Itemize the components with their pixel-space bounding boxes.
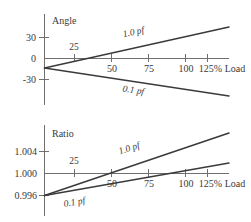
ratio-x-label-50: 50 <box>107 178 117 189</box>
ratio-x-label-25: 25 <box>69 156 79 166</box>
angle-x-label-100: 100 <box>179 63 194 74</box>
ratio-y-label-0996: 0.996 <box>15 190 38 201</box>
angle-x-label-50: 50 <box>107 63 117 74</box>
angle-chart-panel: Angle 30 0 -30 25 50 75 100 125% Load 1.… <box>0 0 251 111</box>
angle-series-label-0-1-pf: 0.1 pf <box>122 83 146 96</box>
ratio-y-label-1004: 1.004 <box>15 146 38 157</box>
angle-x-label-25: 25 <box>69 42 79 52</box>
ratio-series-label-1-0-pf: 1.0 pf <box>117 140 142 157</box>
angle-x-axis-title: 125% Load <box>199 63 245 74</box>
ratio-chart-svg: Ratio 1.004 1.000 0.996 25 50 75 100 125… <box>0 111 251 222</box>
ratio-x-label-100: 100 <box>179 178 194 189</box>
figure-container: Angle 30 0 -30 25 50 75 100 125% Load 1.… <box>0 0 251 222</box>
ratio-x-label-75: 75 <box>144 178 154 189</box>
angle-chart-title: Angle <box>52 15 77 26</box>
angle-chart-svg: Angle 30 0 -30 25 50 75 100 125% Load 1.… <box>0 0 251 111</box>
ratio-y-label-1000: 1.000 <box>15 168 38 179</box>
ratio-chart-panel: Ratio 1.004 1.000 0.996 25 50 75 100 125… <box>0 111 251 222</box>
ratio-series-label-0-1-pf: 0.1 pf <box>63 195 87 209</box>
angle-series-label-1-0-pf: 1.0 pf <box>122 25 147 40</box>
angle-y-label-neg30: -30 <box>23 74 36 85</box>
ratio-x-axis-title: 125% Load <box>199 178 245 189</box>
angle-y-label-0: 0 <box>31 53 36 64</box>
angle-x-label-75: 75 <box>144 63 154 74</box>
angle-y-label-30: 30 <box>26 32 36 43</box>
ratio-chart-title: Ratio <box>52 128 74 139</box>
